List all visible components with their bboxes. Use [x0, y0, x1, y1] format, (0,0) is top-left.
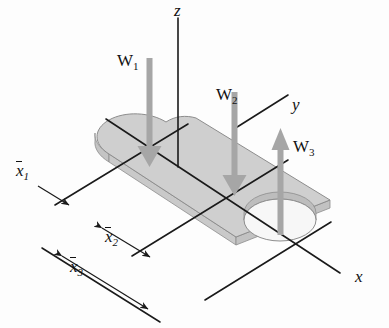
dimension-label-x2-text: x	[105, 228, 113, 245]
diagram-canvas	[0, 0, 389, 328]
force-label-W1-sub: 1	[133, 60, 139, 72]
y-axis-label: y	[292, 96, 300, 113]
force-label-W1: W1	[117, 52, 139, 72]
dimension-label-x2: x2	[105, 228, 118, 248]
dimension-extension-rails	[42, 248, 160, 322]
y-axis-extension	[234, 95, 288, 129]
engineering-diagram: z y x W1 W2 W3 x1 x2 x3	[0, 0, 389, 328]
dimension-label-x1: x1	[16, 162, 29, 182]
force-label-W3-text: W	[293, 137, 309, 156]
z-axis-label: z	[174, 2, 181, 19]
dimension-label-x3-sub: 3	[78, 266, 84, 278]
dimension-label-x3: x3	[70, 258, 83, 278]
rail-outer	[42, 248, 160, 322]
force-label-W2-sub: 2	[232, 94, 238, 106]
force-label-W3-sub: 3	[309, 146, 315, 158]
force-label-W3: W3	[293, 138, 315, 158]
force-label-W2: W2	[216, 86, 238, 106]
dimension-label-x1-text: x	[16, 162, 24, 179]
x-axis-label: x	[355, 268, 363, 285]
dimension-label-x2-sub: 2	[113, 236, 119, 248]
leader-x1	[38, 186, 69, 205]
dimension-label-x3-text: x	[70, 258, 78, 275]
force-label-W2-text: W	[216, 85, 232, 104]
dimension-label-x1-sub: 1	[24, 170, 30, 182]
force-label-W1-text: W	[117, 51, 133, 70]
force-arrow-W1	[138, 58, 162, 167]
